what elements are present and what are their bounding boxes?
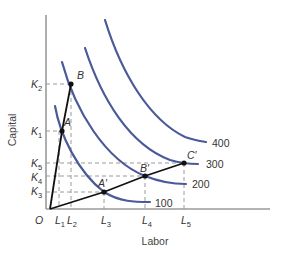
point-C-prime (181, 160, 186, 165)
svg-text:L2: L2 (67, 214, 77, 229)
y-tick-labels: K2 K1 K5 K4 K3 (31, 78, 42, 200)
point-A (59, 128, 64, 133)
isoquant-diagram: B A A′ B′ C′ 400 300 200 100 K2 K1 K5 K4… (0, 0, 282, 257)
point-B (68, 81, 73, 86)
isoquant-label-100: 100 (155, 197, 173, 209)
label-A-prime: A′ (97, 177, 108, 189)
x-axis-label: Labor (142, 235, 169, 247)
svg-text:K1: K1 (31, 125, 42, 140)
isoquant-400 (105, 20, 206, 142)
svg-text:K5: K5 (31, 157, 42, 172)
origin-label: O (35, 214, 43, 226)
svg-text:K2: K2 (31, 78, 42, 93)
x-tick-labels: L1 L2 L3 L4 L5 (55, 214, 191, 229)
y-axis-label: Capital (6, 114, 18, 147)
isoquant-label-400: 400 (212, 137, 230, 149)
label-A: A (63, 116, 71, 128)
point-A-prime (101, 189, 106, 194)
point-B-prime (142, 173, 147, 178)
svg-text:L5: L5 (181, 214, 191, 229)
svg-text:K3: K3 (31, 185, 42, 200)
svg-text:L3: L3 (101, 214, 111, 229)
isoquant-label-200: 200 (192, 178, 210, 190)
label-B: B (77, 69, 84, 81)
label-B-prime: B′ (140, 162, 150, 174)
label-C-prime: C′ (187, 149, 198, 161)
svg-text:L1: L1 (55, 214, 65, 229)
svg-text:L4: L4 (142, 214, 152, 229)
svg-text:K4: K4 (31, 171, 42, 186)
isoquant-label-300: 300 (206, 158, 224, 170)
isoquant-300 (85, 48, 198, 164)
